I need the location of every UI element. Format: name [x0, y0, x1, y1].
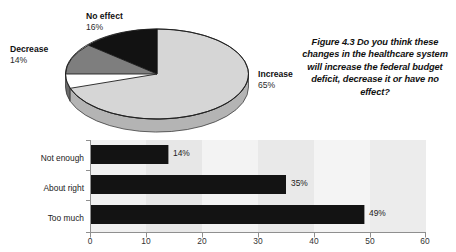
pie-label-increase-name: Increase	[258, 69, 293, 80]
bar-too-much	[90, 205, 364, 224]
x-tick-label-20: 20	[187, 236, 217, 246]
x-tick-label-40: 40	[299, 236, 329, 246]
x-tick-label-0: 0	[75, 236, 105, 246]
pie-chart: No effect 16% Decrease 14% Increase 65%	[0, 0, 300, 128]
bar-plot-area: 14% 35% 49%	[90, 140, 426, 233]
pie-label-no-effect: No effect 16%	[86, 11, 123, 33]
bar-category-label-2: Too much	[0, 213, 84, 223]
bar-chart: Not enough About right Too much	[0, 128, 456, 252]
pie-label-decrease-name: Decrease	[10, 44, 48, 55]
x-tick-label-50: 50	[355, 236, 385, 246]
x-tick-label-60: 60	[410, 236, 440, 246]
pie-label-no-effect-name: No effect	[86, 11, 123, 22]
pie-label-no-effect-percent: 16%	[86, 22, 123, 33]
pie-label-decrease: Decrease 14%	[10, 44, 48, 66]
bar-value-label-2: 49%	[369, 208, 386, 218]
pie-label-decrease-percent: 14%	[10, 55, 48, 66]
bar-category-label-1: About right	[0, 183, 84, 193]
pie-svg	[62, 26, 252, 122]
figure-caption: Figure 4.3 Do you think these changes in…	[300, 36, 450, 98]
bar-value-label-0: 14%	[173, 148, 190, 158]
x-tick-label-10: 10	[131, 236, 161, 246]
pie-label-increase: Increase 65%	[258, 69, 293, 91]
pie-label-increase-percent: 65%	[258, 80, 293, 91]
bar-about-right	[90, 175, 286, 194]
x-tick-label-30: 30	[243, 236, 273, 246]
bar-value-label-1: 35%	[291, 178, 308, 188]
pie-chart-graphic	[62, 26, 252, 122]
bar-svg	[90, 140, 426, 233]
bar-not-enough	[90, 145, 168, 164]
bar-category-label-0: Not enough	[0, 153, 84, 163]
